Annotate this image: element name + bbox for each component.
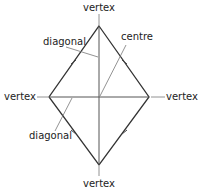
diagonal-lower-leader bbox=[55, 98, 72, 131]
rhombus-diagram: vertex vertex vertex vertex diagonal cen… bbox=[0, 0, 199, 191]
vertex-bottom-label: vertex bbox=[83, 178, 115, 189]
diagonal-upper-leader bbox=[66, 47, 98, 57]
side-tick-top-right bbox=[122, 60, 127, 64]
side-tick-top-left bbox=[71, 60, 76, 64]
centre-label: centre bbox=[121, 31, 153, 42]
centre-leader bbox=[100, 45, 126, 96]
diagonal-lower-label: diagonal bbox=[29, 130, 72, 141]
vertex-top-label: vertex bbox=[83, 2, 115, 13]
vertex-left-label: vertex bbox=[4, 91, 36, 102]
vertex-right-label: vertex bbox=[166, 91, 198, 102]
diagonal-upper-label: diagonal bbox=[43, 36, 86, 47]
